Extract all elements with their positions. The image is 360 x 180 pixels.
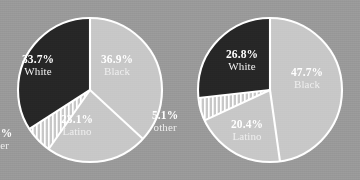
chart-canvas: 33.7% White 36.9% Black 23.1% Latino 6.3… [0, 0, 360, 180]
right-slice-black [270, 18, 342, 161]
pie-charts-svg [0, 0, 360, 180]
right-slice-white [198, 18, 270, 98]
left-pie-chart [18, 18, 162, 162]
right-pie-chart [198, 18, 342, 162]
two-pie-chart-figure: 33.7% White 36.9% Black 23.1% Latino 6.3… [0, 0, 360, 180]
